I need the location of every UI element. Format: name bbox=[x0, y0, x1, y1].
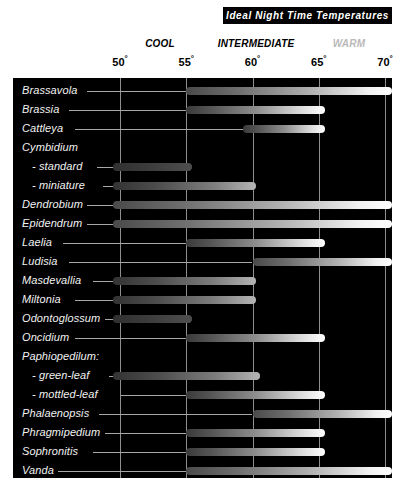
chart-row[interactable]: Vanda bbox=[13, 461, 392, 481]
x-tick-50: 50° bbox=[112, 54, 127, 68]
temperature-range-bar[interactable] bbox=[113, 220, 391, 228]
row-label: Brassavola bbox=[22, 84, 77, 96]
x-tick-70: 70° bbox=[377, 54, 392, 68]
chart-row[interactable]: Dendrobium bbox=[13, 195, 392, 215]
chart-row[interactable]: Odontoglossum bbox=[13, 309, 392, 329]
degree-symbol: ° bbox=[257, 54, 260, 63]
chart-row[interactable]: Paphiopedilum: bbox=[13, 347, 392, 367]
row-leader-line bbox=[93, 281, 113, 282]
chart-row[interactable]: Phragmipedium bbox=[13, 423, 392, 443]
row-leader-line bbox=[87, 205, 113, 206]
row-label: Oncidium bbox=[22, 331, 69, 343]
row-leader-line bbox=[105, 433, 187, 434]
chart-row[interactable]: Masdevallia bbox=[13, 271, 392, 291]
temperature-range-bar[interactable] bbox=[113, 163, 191, 171]
temperature-range-bar[interactable] bbox=[186, 429, 325, 437]
row-label: Masdevallia bbox=[22, 274, 81, 286]
chart-row[interactable]: - miniature bbox=[13, 176, 392, 196]
chart-row[interactable]: Brassia bbox=[13, 100, 392, 120]
row-leader-line bbox=[87, 91, 186, 92]
temperature-range-bar[interactable] bbox=[113, 277, 256, 285]
temperature-range-bar[interactable] bbox=[113, 182, 256, 190]
temperature-range-bar[interactable] bbox=[253, 410, 392, 418]
temperature-range-bar[interactable] bbox=[113, 296, 256, 304]
row-leader-line bbox=[121, 395, 187, 396]
row-label: Laelia bbox=[22, 236, 52, 248]
orchid-temperature-chart: Ideal Night Time Temperatures COOL INTER… bbox=[0, 0, 405, 495]
temperature-range-bar[interactable] bbox=[186, 467, 391, 475]
chart-row[interactable]: Epidendrum bbox=[13, 214, 392, 234]
row-leader-line bbox=[75, 300, 113, 301]
row-leader-line bbox=[97, 167, 113, 168]
chart-row[interactable]: Phalaenopsis bbox=[13, 404, 392, 424]
row-label: - miniature bbox=[32, 179, 85, 191]
row-label: Ludisia bbox=[22, 255, 58, 267]
row-label: - standard bbox=[32, 160, 83, 172]
chart-row[interactable]: Oncidium bbox=[13, 328, 392, 348]
temperature-range-bar[interactable] bbox=[113, 315, 191, 323]
row-label: Phalaenopsis bbox=[22, 407, 89, 419]
chart-row[interactable]: Cattleya bbox=[13, 119, 392, 139]
row-label: Miltonia bbox=[22, 293, 61, 305]
chart-row[interactable]: - standard bbox=[13, 157, 392, 177]
chart-plot-area: BrassavolaBrassiaCattleyaCymbidium- stan… bbox=[13, 78, 392, 478]
temperature-range-bar[interactable] bbox=[186, 448, 325, 456]
temperature-range-bar[interactable] bbox=[186, 334, 325, 342]
temperature-range-bar[interactable] bbox=[113, 372, 260, 380]
row-leader-line bbox=[87, 224, 113, 225]
degree-symbol: ° bbox=[191, 54, 194, 63]
x-tick-value: 50 bbox=[112, 56, 124, 68]
warm-band-label: WARM bbox=[324, 38, 374, 49]
temperature-range-bar[interactable] bbox=[113, 201, 391, 209]
x-tick-value: 70 bbox=[377, 56, 389, 68]
chart-plot-panel: BrassavolaBrassiaCattleyaCymbidium- stan… bbox=[13, 78, 392, 478]
row-label: - green-leaf bbox=[32, 369, 89, 381]
row-label: Cattleya bbox=[22, 122, 63, 134]
chart-title-bar: Ideal Night Time Temperatures bbox=[223, 7, 392, 24]
x-tick-55: 55° bbox=[179, 54, 194, 68]
row-label: Odontoglossum bbox=[22, 312, 100, 324]
intermediate-band-label: INTERMEDIATE bbox=[203, 38, 309, 49]
row-leader-line bbox=[58, 471, 187, 472]
chart-row[interactable]: Laelia bbox=[13, 233, 392, 253]
x-tick-value: 60 bbox=[245, 56, 257, 68]
row-label: Paphiopedilum: bbox=[22, 350, 99, 362]
row-leader-line bbox=[75, 338, 186, 339]
degree-symbol: ° bbox=[125, 54, 128, 63]
x-tick-60: 60° bbox=[245, 54, 260, 68]
row-label: - mottled-leaf bbox=[32, 388, 98, 400]
x-tick-65: 65° bbox=[311, 54, 326, 68]
chart-row[interactable]: Ludisia bbox=[13, 252, 392, 272]
row-leader-line bbox=[103, 186, 113, 187]
row-leader-line bbox=[105, 319, 114, 320]
chart-row[interactable]: Brassavola bbox=[13, 81, 392, 101]
row-label: Cymbidium bbox=[22, 141, 78, 153]
chart-row[interactable]: Miltonia bbox=[13, 290, 392, 310]
row-label: Epidendrum bbox=[22, 217, 82, 229]
x-tick-value: 55 bbox=[179, 56, 191, 68]
row-label: Vanda bbox=[22, 464, 54, 476]
chart-row[interactable]: Cymbidium bbox=[13, 138, 392, 158]
temperature-range-bar[interactable] bbox=[186, 106, 325, 114]
row-label: Dendrobium bbox=[22, 198, 83, 210]
temperature-range-bar[interactable] bbox=[186, 239, 325, 247]
row-leader-line bbox=[69, 110, 186, 111]
row-leader-line bbox=[75, 129, 243, 130]
row-leader-line bbox=[69, 262, 252, 263]
row-label: Brassia bbox=[22, 103, 59, 115]
temperature-range-bar[interactable] bbox=[186, 391, 325, 399]
chart-row[interactable]: - green-leaf bbox=[13, 366, 392, 386]
row-leader-line bbox=[63, 243, 186, 244]
row-leader-line bbox=[93, 452, 186, 453]
chart-row[interactable]: Sophronitis bbox=[13, 442, 392, 462]
row-label: Sophronitis bbox=[22, 445, 78, 457]
degree-symbol: ° bbox=[323, 54, 326, 63]
chart-row[interactable]: - mottled-leaf bbox=[13, 385, 392, 405]
row-leader-line bbox=[99, 414, 253, 415]
temperature-range-bar[interactable] bbox=[243, 125, 325, 133]
page-title: Ideal Night Time Temperatures bbox=[226, 10, 389, 21]
temperature-range-bar[interactable] bbox=[253, 258, 392, 266]
degree-symbol: ° bbox=[390, 54, 393, 63]
temperature-range-bar[interactable] bbox=[186, 87, 391, 95]
x-tick-value: 65 bbox=[311, 56, 323, 68]
